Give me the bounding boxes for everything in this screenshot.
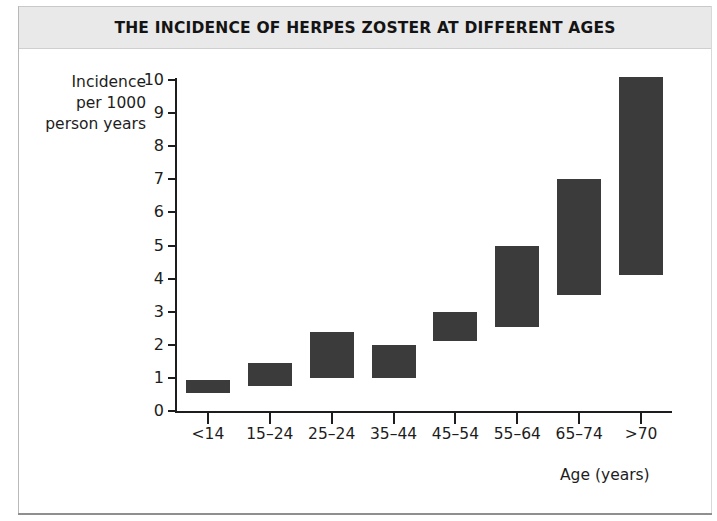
y-axis-tick — [168, 79, 175, 81]
y-axis-tick-label: 5 — [138, 238, 164, 254]
figure-panel: THE INCIDENCE OF HERPES ZOSTER AT DIFFER… — [0, 0, 717, 521]
y-axis-tick-label: 3 — [138, 304, 164, 320]
bar — [248, 363, 292, 386]
y-axis-tick-label: 0 — [138, 403, 164, 419]
x-axis-tick — [578, 413, 580, 424]
x-axis-tick — [207, 413, 209, 424]
x-axis-tick-label: >70 — [601, 427, 681, 443]
y-axis-tick — [168, 245, 175, 247]
bar — [495, 246, 539, 327]
x-axis-tick — [516, 413, 518, 424]
y-axis-tick — [168, 211, 175, 213]
y-axis-line — [175, 78, 177, 413]
y-axis-tick-label: 8 — [138, 138, 164, 154]
x-axis-tick — [454, 413, 456, 424]
y-axis-tick — [168, 278, 175, 280]
y-axis-tick — [168, 377, 175, 379]
y-axis-tick — [168, 410, 175, 412]
x-axis-line — [175, 411, 672, 413]
bar — [372, 345, 416, 378]
bar — [186, 380, 230, 393]
y-axis-tick-label: 2 — [138, 337, 164, 353]
y-axis-tick-label: 9 — [138, 105, 164, 121]
x-axis-tick — [393, 413, 395, 424]
bar — [433, 312, 477, 342]
y-axis-tick — [168, 311, 175, 313]
y-axis-tick — [168, 178, 175, 180]
y-axis-tick-label: 7 — [138, 171, 164, 187]
y-axis-tick — [168, 112, 175, 114]
x-axis-tick — [640, 413, 642, 424]
bar — [619, 77, 663, 276]
y-axis-tick-label: 1 — [138, 370, 164, 386]
y-axis-tick-label: 4 — [138, 271, 164, 287]
bar — [557, 179, 601, 295]
y-axis-tick-label: 10 — [138, 72, 164, 88]
y-axis-tick — [168, 344, 175, 346]
x-axis-tick — [269, 413, 271, 424]
x-axis-title: Age (years) — [560, 466, 650, 484]
y-axis-tick — [168, 145, 175, 147]
x-axis-tick — [331, 413, 333, 424]
plot-area: 012345678910<1415–2425–2435–4445–5455–64… — [0, 0, 717, 521]
bar — [310, 332, 354, 378]
y-axis-tick-label: 6 — [138, 204, 164, 220]
